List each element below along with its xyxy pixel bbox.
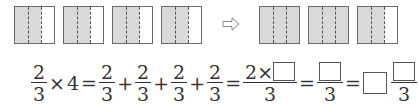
plus-sign: + xyxy=(153,72,169,94)
addend-fraction: 2 3 xyxy=(171,61,187,104)
numerator-prefix: 2× xyxy=(245,62,273,82)
denominator: 3 xyxy=(322,83,338,104)
divider-line xyxy=(371,7,372,43)
divider-line xyxy=(126,7,127,43)
numerator: 2 xyxy=(135,61,151,82)
numerator: 2 xyxy=(207,61,223,82)
right-arrow-icon xyxy=(222,17,240,31)
answer-blank-whole[interactable] xyxy=(363,72,387,94)
answer-blank-3[interactable] xyxy=(393,62,415,81)
plus-sign: + xyxy=(189,72,205,94)
answer-blank-1[interactable] xyxy=(273,62,295,81)
denominator: 3 xyxy=(135,83,151,104)
shaded-region xyxy=(309,7,348,43)
fraction-square-2 xyxy=(63,6,104,44)
step4-fraction: 3 xyxy=(391,61,417,104)
plus-sign: + xyxy=(117,72,133,94)
equals-sign: = xyxy=(81,72,97,94)
divider-line xyxy=(384,7,385,43)
divider-line xyxy=(139,7,140,43)
denominator: 3 xyxy=(396,83,412,104)
equation: 2 3 × 4 = 2 3 + 2 3 + 2 3 + 2 3 = 2× 3 = xyxy=(30,60,418,105)
answer-blank-2[interactable] xyxy=(319,62,341,81)
divider-line xyxy=(175,7,176,43)
fraction-square-4 xyxy=(161,6,202,44)
equals-sign: = xyxy=(225,72,241,94)
denominator: 3 xyxy=(31,83,47,104)
equals-sign: = xyxy=(345,72,361,94)
fraction-square-1 xyxy=(14,6,55,44)
equals-sign: = xyxy=(299,72,315,94)
denominator: 3 xyxy=(207,83,223,104)
numerator xyxy=(317,61,343,82)
denominator: 3 xyxy=(171,83,187,104)
multiplier: 4 xyxy=(67,72,79,94)
step3-fraction: 3 xyxy=(317,61,343,104)
addend-fraction: 2 3 xyxy=(99,61,115,104)
divider-line xyxy=(273,7,274,43)
denominator: 3 xyxy=(99,83,115,104)
fraction-two-thirds: 2 3 xyxy=(31,61,47,104)
fraction-square-3 xyxy=(112,6,153,44)
step2-fraction: 2× 3 xyxy=(243,61,297,104)
numerator: 2 xyxy=(171,61,187,82)
numerator: 2 xyxy=(31,61,47,82)
addend-fraction: 2 3 xyxy=(207,61,223,104)
divider-line xyxy=(77,7,78,43)
regrouped-square-2 xyxy=(308,6,349,44)
divider-line xyxy=(322,7,323,43)
divider-line xyxy=(41,7,42,43)
regrouped-square-1 xyxy=(259,6,300,44)
divider-line xyxy=(335,7,336,43)
shaded-region xyxy=(260,7,299,43)
numerator xyxy=(391,61,417,82)
addend-fraction: 2 3 xyxy=(135,61,151,104)
numerator: 2× xyxy=(243,61,297,82)
divider-line xyxy=(188,7,189,43)
regrouped-square-3 xyxy=(357,6,398,44)
divider-line xyxy=(28,7,29,43)
numerator: 2 xyxy=(99,61,115,82)
times-sign: × xyxy=(49,72,65,94)
divider-line xyxy=(90,7,91,43)
denominator: 3 xyxy=(262,83,278,104)
divider-line xyxy=(286,7,287,43)
